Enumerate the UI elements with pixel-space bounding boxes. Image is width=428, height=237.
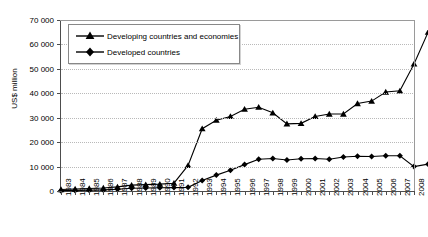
plot-border-top <box>60 20 415 21</box>
x-tick-mark <box>202 191 203 195</box>
x-tick-label: 1988 <box>135 178 144 196</box>
y-tick-label: 0 <box>50 187 54 196</box>
data-point-marker <box>355 153 361 159</box>
x-tick-mark <box>343 191 344 195</box>
gridline <box>61 167 415 168</box>
x-tick-label: 2008 <box>417 178 426 196</box>
plot-border-right <box>414 20 415 191</box>
y-tick-mark <box>57 167 61 168</box>
y-tick-mark <box>57 69 61 70</box>
x-tick-label: 2005 <box>375 178 384 196</box>
gridline <box>61 69 415 70</box>
x-tick-mark <box>400 191 401 195</box>
y-tick-label: 70 000 <box>30 16 54 25</box>
x-tick-mark <box>174 191 175 195</box>
legend-label-developing: Developing countries and economies <box>107 32 238 41</box>
x-tick-mark <box>414 191 415 195</box>
y-tick-label: 30 000 <box>30 113 54 122</box>
data-point-marker <box>256 156 262 162</box>
x-tick-label: 2002 <box>332 178 341 196</box>
data-point-marker <box>340 154 346 160</box>
data-point-marker <box>269 110 276 116</box>
x-tick-mark <box>146 191 147 195</box>
x-tick-mark <box>259 191 260 195</box>
x-tick-label: 1989 <box>149 178 158 196</box>
x-tick-label: 1985 <box>92 178 101 196</box>
x-tick-mark <box>245 191 246 195</box>
data-point-marker <box>284 157 290 163</box>
x-tick-mark <box>61 191 62 195</box>
x-tick-label: 1998 <box>276 178 285 196</box>
x-tick-label: 2000 <box>304 178 313 196</box>
y-axis-tick-labels: 010 00020 00030 00040 00050 00060 00070 … <box>12 0 54 237</box>
y-tick-mark <box>57 44 61 45</box>
x-tick-mark <box>230 191 231 195</box>
data-point-marker <box>368 98 375 104</box>
data-point-marker <box>298 156 304 162</box>
x-tick-mark <box>75 191 76 195</box>
x-tick-label: 1997 <box>262 178 271 196</box>
x-tick-label: 2006 <box>389 178 398 196</box>
y-tick-label: 50 000 <box>30 64 54 73</box>
x-tick-label: 1992 <box>191 178 200 196</box>
gridline <box>61 118 415 119</box>
x-tick-label: 1991 <box>177 178 186 196</box>
x-tick-label: 2004 <box>361 178 370 196</box>
data-point-marker <box>270 156 276 162</box>
x-tick-mark <box>315 191 316 195</box>
data-point-marker <box>227 167 233 173</box>
x-tick-mark <box>329 191 330 195</box>
gridline <box>61 93 415 94</box>
data-point-marker <box>326 156 332 162</box>
gridline <box>61 142 415 143</box>
x-tick-label: 2007 <box>403 178 412 196</box>
y-tick-label: 40 000 <box>30 89 54 98</box>
x-tick-mark <box>273 191 274 195</box>
triangle-marker-icon <box>75 30 105 42</box>
x-tick-label: 1987 <box>120 178 129 196</box>
x-tick-label: 1984 <box>78 178 87 196</box>
y-tick-label: 10 000 <box>30 162 54 171</box>
x-axis-tick-labels: 1983198419851986198719881989199019911992… <box>60 196 414 236</box>
y-tick-label: 60 000 <box>30 40 54 49</box>
x-tick-mark <box>216 191 217 195</box>
x-tick-mark <box>386 191 387 195</box>
x-tick-label: 1994 <box>219 178 228 196</box>
data-point-marker <box>255 104 262 110</box>
diamond-marker-icon <box>75 46 105 58</box>
x-tick-label: 2001 <box>318 178 327 196</box>
x-tick-mark <box>117 191 118 195</box>
x-tick-mark <box>132 191 133 195</box>
x-tick-mark <box>89 191 90 195</box>
x-tick-mark <box>103 191 104 195</box>
legend-item-developed: Developed countries <box>75 45 180 59</box>
x-tick-mark <box>287 191 288 195</box>
x-tick-label: 1996 <box>248 178 257 196</box>
y-tick-mark <box>57 142 61 143</box>
data-point-marker <box>383 153 389 159</box>
x-tick-label: 1999 <box>290 178 299 196</box>
x-tick-label: 1993 <box>205 178 214 196</box>
data-point-marker <box>199 126 206 132</box>
x-tick-label: 1983 <box>64 178 73 196</box>
y-tick-mark <box>57 93 61 94</box>
x-tick-mark <box>358 191 359 195</box>
x-tick-label: 1990 <box>163 178 172 196</box>
data-point-marker <box>312 156 318 162</box>
x-tick-label: 1995 <box>233 178 242 196</box>
series-line-1 <box>61 156 428 191</box>
y-tick-mark <box>57 118 61 119</box>
data-point-marker <box>369 154 375 160</box>
chart-legend: Developing countries and economies Devel… <box>68 24 240 64</box>
x-tick-mark <box>188 191 189 195</box>
x-tick-mark <box>301 191 302 195</box>
x-tick-mark <box>372 191 373 195</box>
x-tick-label: 1986 <box>106 178 115 196</box>
line-chart: US$ million 010 00020 00030 00040 00050 … <box>0 0 428 237</box>
y-tick-label: 20 000 <box>30 138 54 147</box>
x-tick-label: 2003 <box>346 178 355 196</box>
legend-label-developed: Developed countries <box>107 48 180 57</box>
x-tick-mark <box>160 191 161 195</box>
legend-item-developing: Developing countries and economies <box>75 29 238 43</box>
